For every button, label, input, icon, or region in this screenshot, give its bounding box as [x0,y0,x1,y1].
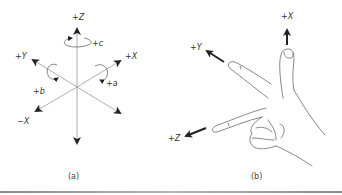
arrow-pos-y [207,51,224,62]
bottom-divider [0,191,342,193]
axes-diagram-a: +Z +X +Y −X +c +a +b (a) [15,13,138,181]
caption-b: (b) [251,172,262,181]
label-rot-a: +a [106,79,118,88]
label-rot-c: +c [92,39,104,48]
label-b-pos-x: +X [281,12,294,21]
label-neg-x: −X [17,117,30,126]
label-pos-y: +Y [15,52,28,61]
hand-icon [212,49,325,166]
y-axis-negative [77,87,120,113]
label-pos-x: +X [125,52,138,61]
rotation-c-icon [64,38,91,47]
coordinate-systems-figure: +Z +X +Y −X +c +a +b (a) [0,0,342,195]
label-rot-b: +b [33,87,45,96]
label-pos-z: +Z [72,13,85,22]
label-b-pos-y: +Y [190,43,203,52]
arrow-pos-z [186,128,206,136]
label-b-pos-z: +Z [168,134,181,143]
caption-a: (a) [68,172,79,181]
right-hand-rule-diagram-b: +X +Y +Z (b) [168,12,325,181]
